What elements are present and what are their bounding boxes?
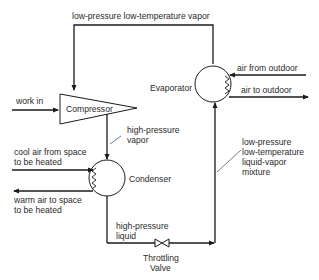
- throttling-label-1: Throttling: [143, 253, 179, 263]
- throttling-label-2: Valve: [150, 263, 171, 273]
- evaporator: [195, 66, 231, 102]
- heat-pump-diagram: low-pressure low-temperature vapor work …: [0, 0, 319, 280]
- mixture-label-4: mixture: [242, 167, 270, 177]
- cool-air-label-1: cool air from space: [14, 147, 87, 157]
- liquid-vapor-mixture-line: [169, 103, 241, 243]
- top-vapor-label: low-pressure low-temperature vapor: [72, 11, 210, 21]
- condenser-label: Condenser: [129, 174, 171, 184]
- work-in-label: work in: [15, 96, 43, 106]
- high-pressure-vapor-line: [107, 114, 121, 159]
- low-pressure-vapor-line: [74, 25, 213, 90]
- air-from-outdoor-label: air from outdoor: [237, 63, 298, 73]
- compressor-label: Compressor: [66, 104, 113, 114]
- hp-vapor-label-1: high-pressure: [127, 125, 180, 135]
- hp-liquid-label-2: liquid: [116, 231, 136, 241]
- mixture-label-2: low-temperature: [242, 147, 304, 157]
- mixture-label-1: low-pressure: [242, 137, 291, 147]
- warm-air-label-2: to be heated: [14, 205, 62, 215]
- hp-vapor-label-2: vapor: [127, 135, 149, 145]
- hp-liquid-label-1: high-pressure: [116, 221, 169, 231]
- evaporator-label: Evaporator: [150, 83, 192, 93]
- condenser: [89, 160, 125, 196]
- cool-air-label-2: to be heated: [14, 157, 62, 167]
- mixture-label-3: liquid-vapor: [242, 157, 287, 167]
- air-to-outdoor-label: air to outdoor: [241, 85, 292, 95]
- throttling-valve: [155, 239, 169, 247]
- warm-air-label-1: warm air to space: [13, 195, 82, 205]
